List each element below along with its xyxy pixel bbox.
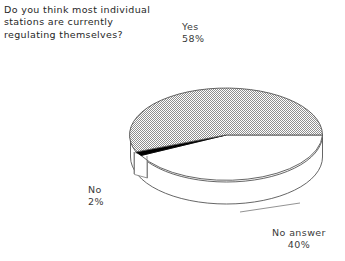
slice-label-no-answer: No answer 40% [272, 227, 326, 251]
pie-chart-graphic [0, 0, 345, 261]
pie-chart-figure: Do you think most individual stations ar… [0, 0, 345, 261]
slice-label-no: No 2% [88, 184, 104, 208]
slice-label-yes: Yes 58% [182, 21, 204, 45]
